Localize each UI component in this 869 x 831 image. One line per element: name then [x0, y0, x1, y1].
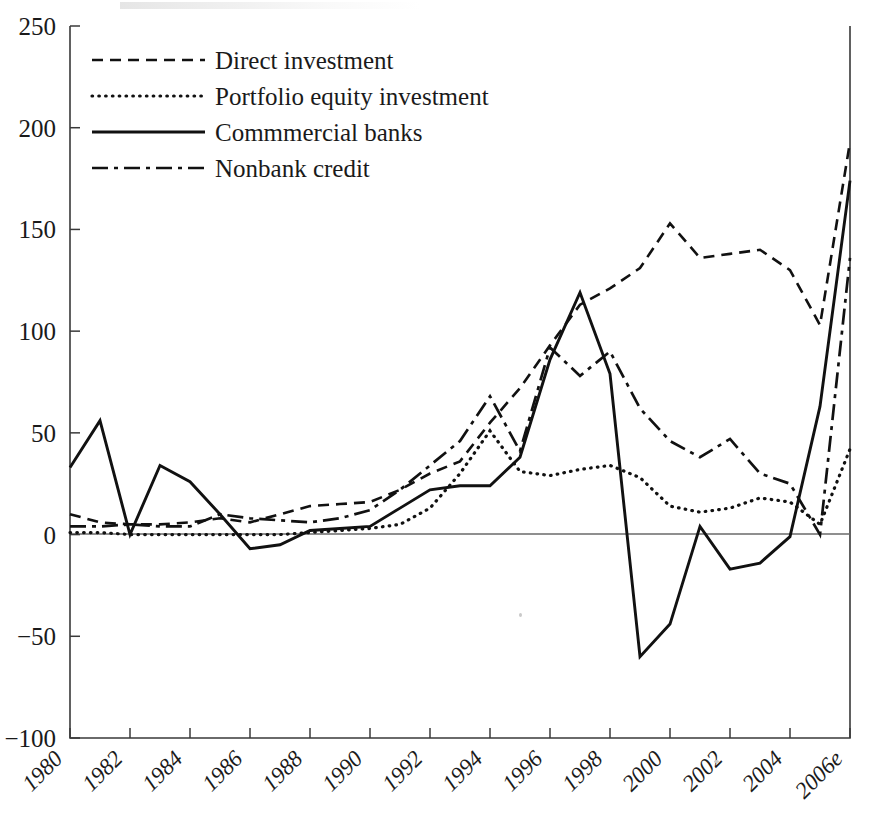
legend-label-portfolio-equity: Portfolio equity investment	[215, 83, 489, 110]
x-axis-tick-labels: 1980198219841986198819901992199419961998…	[17, 746, 847, 804]
x-axis-tick-label: 1988	[257, 746, 308, 797]
y-axis-tick-label: 50	[31, 420, 56, 447]
x-axis-tick-label: 1992	[377, 746, 427, 796]
series-line-nonbank-credit	[70, 258, 850, 535]
legend-item-nonbank-credit: Nonbank credit	[92, 155, 370, 182]
chart-legend: Direct investment Portfolio equity inves…	[92, 47, 489, 182]
y-axis-tick-label: −50	[17, 623, 56, 650]
y-axis-tick-label: 150	[19, 216, 57, 243]
legend-item-portfolio-equity: Portfolio equity investment	[92, 83, 489, 110]
y-axis-tick-label: 200	[19, 115, 57, 142]
x-axis-tick-label: 1996	[497, 746, 548, 797]
x-axis-tick-label: 2006e	[790, 746, 847, 803]
legend-label-commercial-banks: Commmercial banks	[215, 119, 423, 146]
x-axis-tick-label: 1980	[17, 746, 68, 797]
legend-item-direct-investment: Direct investment	[92, 47, 393, 74]
legend-label-nonbank-credit: Nonbank credit	[215, 155, 370, 182]
series-line-direct-investment	[70, 142, 850, 524]
x-axis-tick-label: 1998	[557, 746, 608, 797]
series-line-portfolio-equity-investment	[70, 431, 850, 535]
y-axis-tick-labels: 250200150100500−50−100	[4, 13, 56, 752]
series-line-commercial-banks	[70, 181, 850, 657]
capital-flows-line-chart: 250200150100500−50−100 19801982198419861…	[0, 0, 869, 831]
x-axis-tick-label: 2000	[617, 746, 668, 797]
scan-speck	[714, 760, 719, 763]
x-axis-tick-label: 1994	[437, 746, 487, 796]
y-axis-tick-label: 100	[19, 318, 57, 345]
y-axis-tick-label: 250	[19, 13, 57, 40]
x-axis-tick-label: 1986	[197, 746, 248, 797]
legend-label-direct-investment: Direct investment	[215, 47, 393, 74]
scan-artifact-top	[120, 2, 420, 9]
x-axis-tick-label: 2004	[737, 746, 787, 796]
chart-page: 250200150100500−50−100 19801982198419861…	[0, 0, 869, 831]
x-axis-tick-label: 1982	[77, 746, 127, 796]
x-axis-ticks	[70, 728, 850, 738]
x-axis-tick-label: 2002	[677, 746, 727, 796]
scan-speck	[519, 613, 522, 617]
chart-series-group	[70, 142, 850, 657]
legend-item-commercial-banks: Commmercial banks	[92, 119, 423, 146]
x-axis-tick-label: 1984	[137, 746, 187, 796]
y-axis-ticks	[70, 26, 80, 738]
y-axis-tick-label: 0	[44, 522, 57, 549]
x-axis-tick-label: 1990	[317, 746, 368, 797]
